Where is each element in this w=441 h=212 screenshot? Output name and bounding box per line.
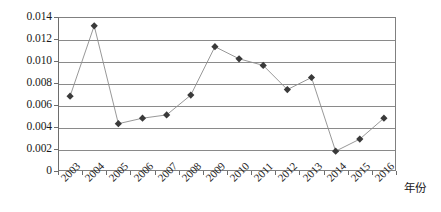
gridline bbox=[59, 84, 395, 85]
x-axis-tick-mark bbox=[396, 171, 397, 175]
y-axis-tick-label: 0.010 bbox=[0, 55, 52, 66]
y-axis-tick-label: 0.014 bbox=[0, 11, 52, 22]
y-axis-tick-label: 0.006 bbox=[0, 99, 52, 110]
line-chart: 00.0020.0040.0060.0080.0100.0120.014 200… bbox=[0, 0, 441, 212]
gridline bbox=[59, 128, 395, 129]
gridline bbox=[59, 40, 395, 41]
y-axis-tick-label: 0.012 bbox=[0, 33, 52, 44]
y-axis-tick-label: 0.002 bbox=[0, 143, 52, 154]
gridline bbox=[59, 62, 395, 63]
y-axis-tick-label: 0 bbox=[0, 165, 52, 176]
y-axis-tick-label: 0.008 bbox=[0, 77, 52, 88]
gridline bbox=[59, 106, 395, 107]
x-axis-title: 年份 bbox=[404, 182, 426, 194]
gridline bbox=[59, 150, 395, 151]
plot-area bbox=[58, 17, 396, 171]
y-axis-tick-label: 0.004 bbox=[0, 121, 52, 132]
